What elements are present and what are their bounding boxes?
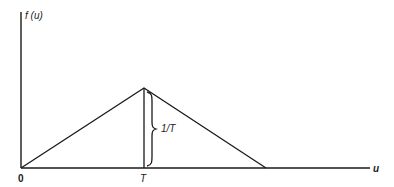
y-axis-label: f (u) [25,10,43,21]
height-label: 1/T [161,123,176,134]
origin-label: 0 [18,173,24,184]
height-brace [147,92,156,166]
peak-x-label: T [140,173,147,184]
triangular-density-diagram: f (u) u 0 T 1/T [0,0,394,187]
x-axis-label: u [373,163,379,174]
